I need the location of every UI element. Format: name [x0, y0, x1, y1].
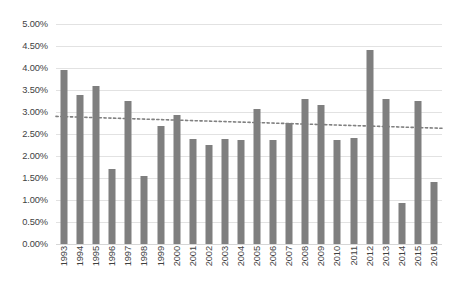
- x-axis-tick-label: 2008: [300, 246, 310, 266]
- x-axis-tick-label: 1994: [75, 246, 85, 266]
- y-axis-tick-label: 0.50%: [22, 217, 48, 227]
- y-axis-tick-label: 5.00%: [22, 19, 48, 29]
- x-axis-tick-label: 2002: [204, 246, 214, 266]
- bar: [430, 182, 437, 244]
- x-axis-tick-label: 2016: [429, 246, 439, 266]
- bar: [109, 169, 116, 244]
- bar-slot: [378, 24, 394, 244]
- bar-slot: [217, 24, 233, 244]
- bar-slot: [297, 24, 313, 244]
- bar: [77, 95, 84, 244]
- x-axis-tick-label: 2009: [316, 246, 326, 266]
- x-axis-tick-label: 2007: [284, 246, 294, 266]
- x-axis-tick-label: 2012: [365, 246, 375, 266]
- bar: [318, 105, 325, 244]
- bar-slot: [281, 24, 297, 244]
- y-axis-tick-label: 4.50%: [22, 41, 48, 51]
- x-axis: 1993199419951996199719981999200020012002…: [56, 246, 442, 293]
- bar: [398, 203, 405, 244]
- y-axis-tick-label: 1.50%: [22, 173, 48, 183]
- bar: [141, 176, 148, 244]
- bar: [334, 140, 341, 244]
- bar-slot: [169, 24, 185, 244]
- bar: [205, 145, 212, 244]
- x-axis-tick-label: 1999: [156, 246, 166, 266]
- bar: [93, 86, 100, 244]
- y-axis-tick-label: 3.50%: [22, 85, 48, 95]
- plot-area: [56, 24, 442, 244]
- bar: [237, 140, 244, 244]
- bar-slot: [233, 24, 249, 244]
- axis-baseline: [56, 244, 442, 245]
- bar-slot: [329, 24, 345, 244]
- bar: [286, 123, 293, 244]
- x-axis-tick-label: 1995: [91, 246, 101, 266]
- x-axis-tick-label: 2010: [332, 246, 342, 266]
- x-axis-tick-label: 2001: [188, 246, 198, 266]
- x-axis-tick-label: 2005: [252, 246, 262, 266]
- bar-slot: [313, 24, 329, 244]
- bar-slot: [136, 24, 152, 244]
- x-axis-tick-label: 2000: [172, 246, 182, 266]
- bar: [61, 70, 68, 244]
- bar: [350, 138, 357, 244]
- bar-slot: [249, 24, 265, 244]
- bar-slot: [185, 24, 201, 244]
- bar-slot: [426, 24, 442, 244]
- y-axis: 5.00%4.50%4.00%3.50%3.00%2.50%2.00%1.50%…: [0, 0, 56, 293]
- x-axis-tick-label: 1993: [59, 246, 69, 266]
- x-axis-tick-label: 2011: [349, 246, 359, 266]
- bar: [157, 126, 164, 244]
- bar: [414, 101, 421, 244]
- bar-slot: [56, 24, 72, 244]
- x-axis-tick-label: 1996: [107, 246, 117, 266]
- bar-series: [56, 24, 442, 244]
- bar: [125, 101, 132, 244]
- bar-slot: [88, 24, 104, 244]
- bar-slot: [346, 24, 362, 244]
- x-axis-tick-label: 1998: [139, 246, 149, 266]
- bar-slot: [394, 24, 410, 244]
- bar-chart: 5.00%4.50%4.00%3.50%3.00%2.50%2.00%1.50%…: [0, 0, 450, 293]
- y-axis-tick-label: 1.00%: [22, 195, 48, 205]
- bar: [221, 139, 228, 244]
- bar-slot: [104, 24, 120, 244]
- x-axis-tick-label: 1997: [123, 246, 133, 266]
- bar: [270, 140, 277, 244]
- x-axis-tick-label: 2003: [220, 246, 230, 266]
- bar-slot: [72, 24, 88, 244]
- bar: [382, 99, 389, 244]
- y-axis-tick-label: 2.00%: [22, 151, 48, 161]
- x-axis-tick-label: 2004: [236, 246, 246, 266]
- bar: [173, 115, 180, 244]
- bar-slot: [265, 24, 281, 244]
- x-axis-tick-label: 2014: [397, 246, 407, 266]
- bar: [366, 50, 373, 244]
- x-axis-tick-label: 2015: [413, 246, 423, 266]
- bar-slot: [410, 24, 426, 244]
- y-axis-tick-label: 4.00%: [22, 63, 48, 73]
- bar-slot: [362, 24, 378, 244]
- y-axis-tick-label: 2.50%: [22, 129, 48, 139]
- bar-slot: [201, 24, 217, 244]
- bar: [254, 109, 261, 244]
- y-axis-tick-label: 0.00%: [22, 239, 48, 249]
- bar-slot: [120, 24, 136, 244]
- x-axis-tick-label: 2006: [268, 246, 278, 266]
- x-axis-tick-label: 2013: [381, 246, 391, 266]
- y-axis-tick-label: 3.00%: [22, 107, 48, 117]
- bar: [302, 99, 309, 244]
- bar-slot: [153, 24, 169, 244]
- bar: [189, 139, 196, 244]
